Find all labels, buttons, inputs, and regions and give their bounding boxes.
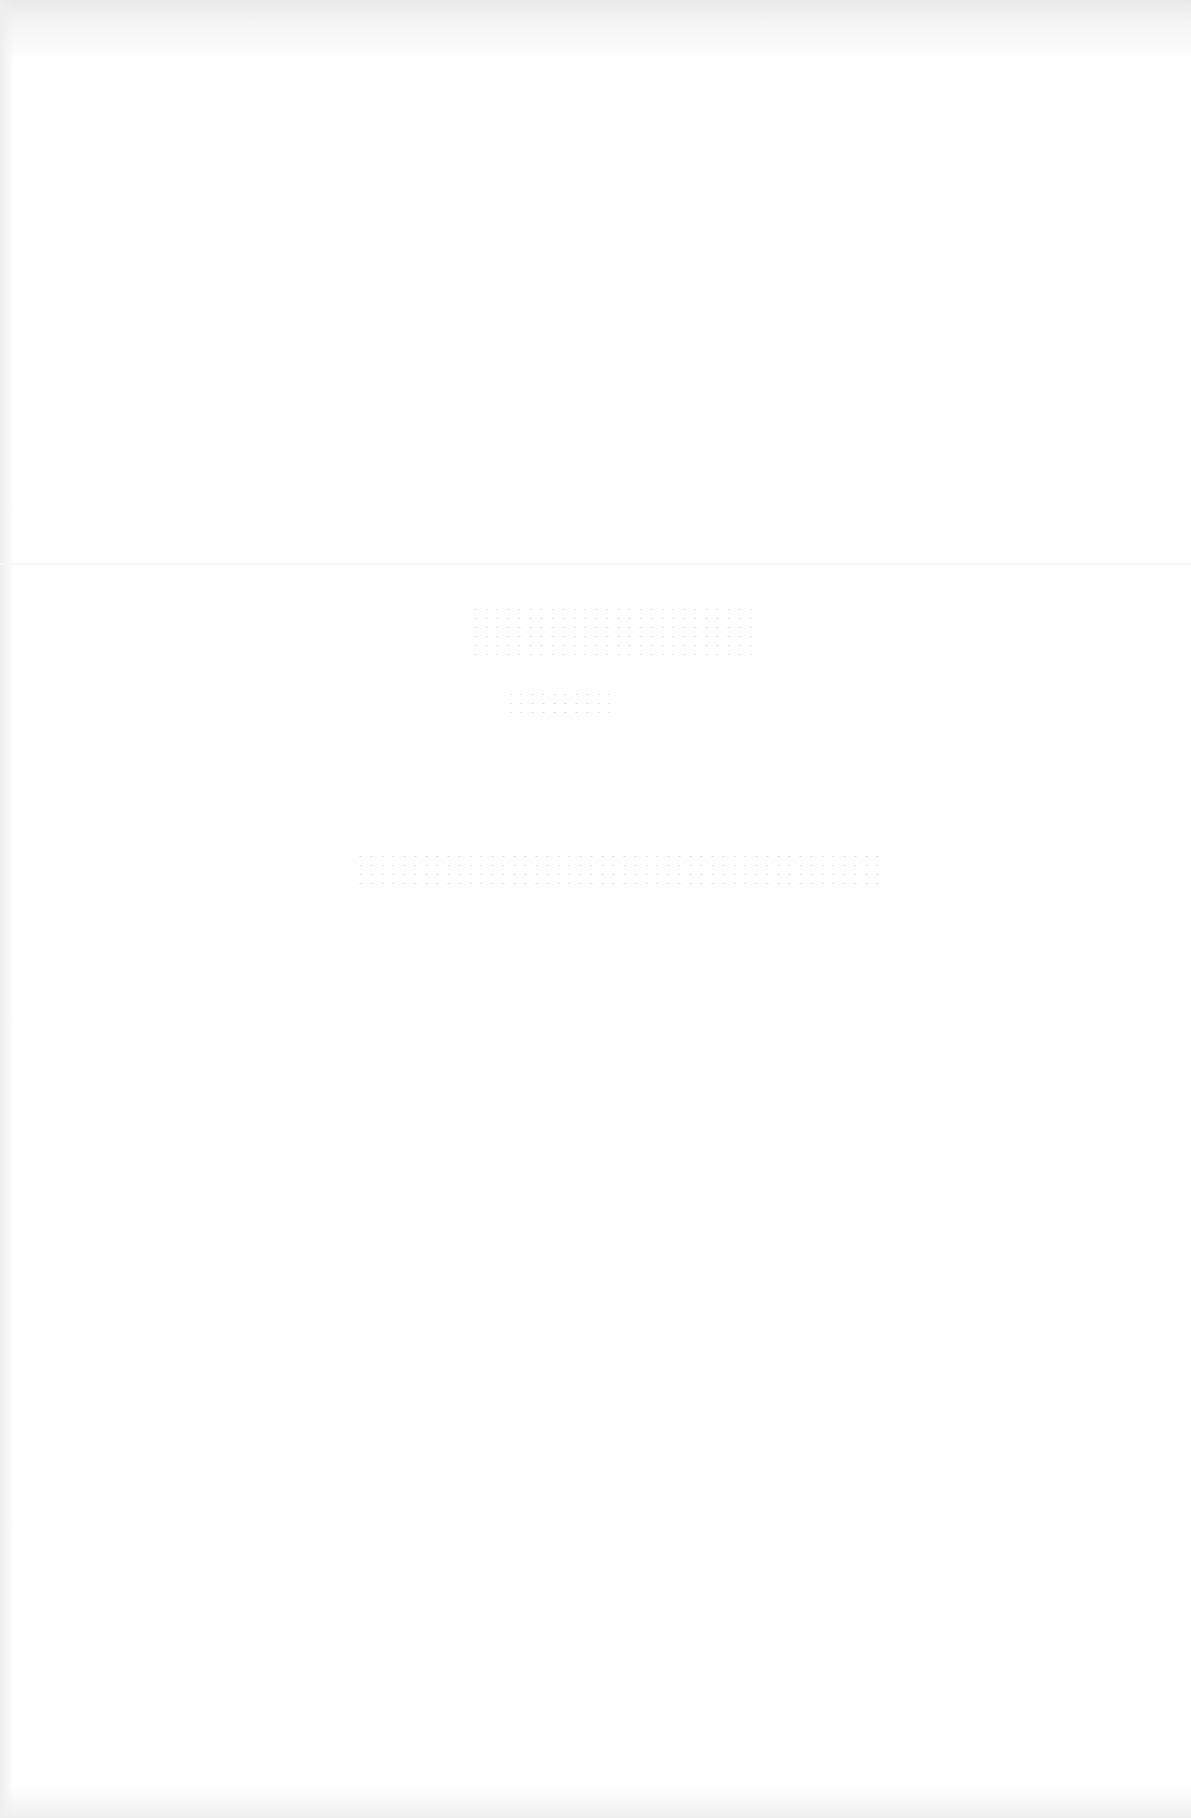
scan-edge-left-shading: [0, 0, 14, 1818]
scanned-page: [0, 0, 1191, 1818]
scan-edge-top-shading: [0, 0, 1191, 60]
scan-edge-bottom-shading: [0, 1788, 1191, 1818]
ghost-title-text: [470, 605, 760, 655]
page-fold-line: [0, 563, 1191, 565]
ghost-body-text: [355, 852, 885, 892]
ghost-chapter-title: [470, 605, 760, 655]
ghost-subtitle: [505, 690, 615, 720]
ghost-body-line: [355, 852, 885, 892]
ghost-subtitle-text: [505, 690, 615, 720]
